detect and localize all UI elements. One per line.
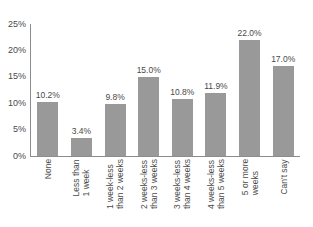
bar-value-label: 9.8%: [105, 93, 124, 102]
x-axis-category-line: None: [43, 159, 53, 179]
bar-value-label: 10.2%: [36, 91, 60, 100]
y-axis-tick-label: 5%: [13, 125, 26, 134]
bar-chart: 0%5%10%15%20%25% 10.2%3.4%9.8%15.0%10.8%…: [0, 0, 313, 227]
x-axis-category-text: 2 weeks-lessthan 3 weeks: [139, 159, 159, 209]
x-axis-category-text: Less than1 week: [71, 159, 91, 196]
x-axis-category-line: Can't say: [278, 159, 288, 194]
bar[interactable]: [105, 104, 126, 156]
bar-group: 15.0%: [138, 24, 159, 156]
bar[interactable]: [205, 93, 226, 156]
x-axis-category-label: 1 week-lessthan 2 weeks: [98, 157, 132, 227]
x-axis-category-text: 5 or moreweeks: [240, 159, 260, 195]
x-axis-category-line: 3 weeks-less: [172, 159, 182, 209]
x-axis-category-label: 5 or moreweeks: [233, 157, 267, 227]
x-axis-category-line: 5 or more: [240, 159, 250, 195]
bar[interactable]: [138, 77, 159, 156]
bar-value-label: 11.9%: [204, 82, 227, 91]
bar[interactable]: [172, 99, 193, 156]
x-axis-category-label: None: [31, 157, 65, 227]
y-axis-tick-label: 25%: [8, 20, 26, 29]
x-axis-category-line: than 5 weeks: [216, 159, 226, 209]
bar-group: 3.4%: [71, 24, 92, 156]
x-axis-category-line: 4 weeks-less: [206, 159, 216, 209]
x-axis-category-label: 2 weeks-lessthan 3 weeks: [132, 157, 166, 227]
y-axis-tick-label: 15%: [8, 72, 26, 81]
x-axis-category-line: Less than: [71, 159, 81, 196]
bar-value-label: 15.0%: [137, 66, 161, 75]
x-axis-category-label: Less than1 week: [65, 157, 99, 227]
x-axis-category-text: 4 weeks-lessthan 5 weeks: [206, 159, 226, 209]
bar-group: 10.2%: [37, 24, 58, 156]
bar-value-label: 17.0%: [271, 55, 295, 64]
bar[interactable]: [71, 138, 92, 156]
x-axis-category-label: 4 weeks-lessthan 5 weeks: [199, 157, 233, 227]
bar-value-label: 10.8%: [170, 88, 194, 97]
x-axis-category-text: 3 weeks-lessthan 4 weeks: [172, 159, 192, 209]
bar-group: 9.8%: [105, 24, 126, 156]
plot-area: 10.2%3.4%9.8%15.0%10.8%11.9%22.0%17.0%: [31, 24, 300, 156]
y-axis: 0%5%10%15%20%25%: [0, 0, 30, 227]
bar-value-label: 3.4%: [72, 127, 91, 136]
x-axis-category-line: 2 weeks-less: [139, 159, 149, 209]
x-axis-category-text: 1 week-lessthan 2 weeks: [105, 159, 125, 209]
y-axis-tick-label: 20%: [8, 46, 26, 55]
bar-group: 10.8%: [172, 24, 193, 156]
bar[interactable]: [239, 40, 260, 156]
x-axis-category-text: None: [43, 159, 53, 179]
bar-group: 11.9%: [205, 24, 226, 156]
bar-group: 22.0%: [239, 24, 260, 156]
x-axis-category-line: 1 week: [81, 159, 91, 196]
x-axis-category-text: Can't say: [278, 159, 288, 194]
x-axis-category-line: than 2 weeks: [115, 159, 125, 209]
y-axis-tick-label: 0%: [13, 152, 26, 161]
bar[interactable]: [273, 66, 294, 156]
bar-value-label: 22.0%: [238, 29, 262, 38]
y-axis-tick-label: 10%: [8, 99, 26, 108]
x-axis-category-line: than 4 weeks: [182, 159, 192, 209]
x-axis-category-line: weeks: [250, 159, 260, 195]
x-axis: NoneLess than1 week1 week-lessthan 2 wee…: [31, 157, 300, 227]
x-axis-category-line: than 3 weeks: [149, 159, 159, 209]
x-axis-category-line: 1 week-less: [105, 159, 115, 209]
bar[interactable]: [37, 102, 58, 156]
x-axis-category-label: Can't say: [266, 157, 300, 227]
x-axis-category-label: 3 weeks-lessthan 4 weeks: [166, 157, 200, 227]
bar-group: 17.0%: [273, 24, 294, 156]
